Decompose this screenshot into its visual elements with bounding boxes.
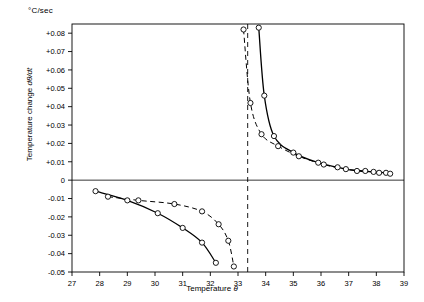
x-tick-label: 32 <box>206 279 214 288</box>
x-tick-label: 33 <box>234 279 242 288</box>
chart-container: °C/sec Temperature change dθ/dt Temperat… <box>0 0 424 302</box>
data-point-marker <box>93 189 98 194</box>
y-tick-label: -0.01 <box>48 194 65 203</box>
data-point-marker <box>216 222 221 227</box>
axes-frame <box>72 24 404 272</box>
x-tick-label: 36 <box>317 279 325 288</box>
y-tick-label: -0.03 <box>48 231 65 240</box>
data-point-marker <box>105 194 110 199</box>
series-curve <box>259 28 386 173</box>
data-point-marker <box>271 133 276 138</box>
y-tick-label: +0.06 <box>46 66 65 75</box>
data-point-marker <box>256 25 261 30</box>
y-tick-label: +0.05 <box>46 84 65 93</box>
series-curve <box>108 197 234 267</box>
data-point-marker <box>213 260 218 265</box>
data-point-marker <box>262 93 267 98</box>
data-point-marker <box>316 160 321 165</box>
data-point-marker <box>388 171 393 176</box>
data-point-marker <box>199 240 204 245</box>
x-tick-label: 28 <box>95 279 103 288</box>
x-tick-label: 29 <box>123 279 131 288</box>
data-point-marker <box>291 150 296 155</box>
x-tick-label: 35 <box>289 279 297 288</box>
data-point-marker <box>371 169 376 174</box>
data-point-marker <box>321 162 326 167</box>
data-point-marker <box>226 238 231 243</box>
data-point-marker <box>354 168 359 173</box>
data-point-marker <box>343 167 348 172</box>
x-tick-label: 30 <box>151 279 159 288</box>
x-tick-label: 39 <box>400 279 408 288</box>
data-point-marker <box>155 211 160 216</box>
y-tick-label: +0.01 <box>46 158 65 167</box>
data-point-marker <box>377 170 382 175</box>
y-tick-label: +0.07 <box>46 47 65 56</box>
data-point-marker <box>136 198 141 203</box>
y-tick-label: -0.02 <box>48 213 65 222</box>
x-tick-label: 38 <box>372 279 380 288</box>
data-point-marker <box>363 168 368 173</box>
y-tick-label: +0.04 <box>46 102 65 111</box>
y-tick-label: +0.02 <box>46 139 65 148</box>
x-tick-label: 34 <box>261 279 269 288</box>
x-tick-label: 31 <box>178 279 186 288</box>
x-tick-label: 37 <box>344 279 352 288</box>
y-tick-label: +0.08 <box>46 29 65 38</box>
data-point-marker <box>259 132 264 137</box>
plot-area: 27282930313233343536373839+0.08+0.07+0.0… <box>0 0 424 302</box>
y-tick-label: 0 <box>61 176 65 185</box>
data-point-marker <box>172 201 177 206</box>
data-point-marker <box>231 264 236 269</box>
data-point-marker <box>180 225 185 230</box>
data-point-marker <box>296 154 301 159</box>
series-curve <box>96 191 216 263</box>
y-tick-label: -0.04 <box>48 249 65 258</box>
y-tick-label: +0.03 <box>46 121 65 130</box>
data-point-marker <box>248 100 253 105</box>
x-tick-label: 27 <box>68 279 76 288</box>
data-point-marker <box>125 198 130 203</box>
data-point-marker <box>199 209 204 214</box>
data-point-marker <box>276 144 281 149</box>
y-tick-label: -0.05 <box>48 268 65 277</box>
data-point-marker <box>335 165 340 170</box>
data-point-marker <box>241 27 246 32</box>
